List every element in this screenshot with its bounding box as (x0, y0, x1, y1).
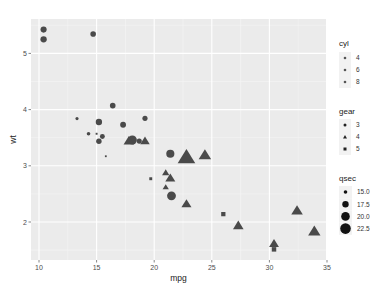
x-tick-label: 15 (93, 264, 101, 271)
point-circle (87, 132, 91, 136)
point-square (96, 133, 98, 135)
legend: cyl468gear345qsec15.017.520.022.5 (339, 39, 370, 235)
point-square (272, 247, 276, 251)
y-tick-label: 5 (23, 50, 27, 57)
legend-size-dot (344, 190, 348, 194)
panel-background (31, 19, 326, 260)
legend-size-dot (340, 223, 351, 234)
legend-label-gear: 5 (356, 145, 360, 152)
legend-circle-icon (344, 124, 347, 127)
point-square (149, 177, 152, 180)
x-tick-label: 10 (35, 264, 43, 271)
point-circle (96, 119, 102, 125)
legend-label-qsec: 20.0 (357, 213, 370, 220)
legend-key-dot (344, 69, 347, 72)
legend-label-cyl: 6 (356, 66, 360, 73)
legend-label-cyl: 4 (356, 54, 360, 61)
point-circle (110, 103, 116, 109)
y-axis-title: wt (8, 135, 18, 145)
point-square (105, 155, 107, 157)
point-circle (120, 122, 126, 128)
point-circle (96, 139, 101, 144)
y-tick-label: 3 (23, 162, 27, 169)
legend-key-dot (344, 81, 347, 84)
point-circle (167, 191, 176, 200)
point-circle (90, 31, 96, 37)
x-tick-label: 30 (266, 264, 274, 271)
legend-label-qsec: 17.5 (357, 201, 370, 208)
legend-label-cyl: 8 (356, 78, 360, 85)
point-circle (40, 36, 46, 42)
legend-title-cyl: cyl (339, 39, 349, 48)
point-circle (100, 134, 105, 139)
plot-panel (31, 19, 327, 260)
legend-size-dot (342, 201, 348, 207)
legend-label-qsec: 15.0 (357, 188, 370, 195)
legend-size-dot (341, 212, 350, 221)
legend-square-icon (344, 148, 347, 151)
point-circle (75, 117, 78, 120)
legend-label-gear: 4 (356, 133, 360, 140)
point-circle (137, 139, 142, 144)
legend-key-dot (344, 57, 347, 60)
x-tick-label: 20 (150, 264, 158, 271)
point-circle (41, 27, 47, 33)
legend-label-qsec: 22.5 (357, 225, 370, 232)
point-square (221, 212, 225, 216)
x-axis-title: mpg (170, 273, 187, 283)
legend-title-qsec: qsec (339, 174, 356, 183)
x-tick-label: 35 (323, 264, 331, 271)
point-circle (142, 116, 147, 121)
legend-title-gear: gear (339, 107, 355, 116)
y-tick-label: 2 (23, 219, 27, 226)
legend-label-gear: 3 (356, 121, 360, 128)
scatter-chart: 1015202530352345mpgwt cyl468gear345qsec1… (0, 0, 384, 295)
point-circle (166, 150, 174, 158)
x-tick-label: 25 (208, 264, 216, 271)
y-tick-label: 4 (23, 106, 27, 113)
